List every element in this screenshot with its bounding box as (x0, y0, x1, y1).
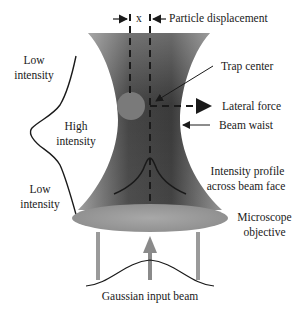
displacement-symbol-label: x (136, 12, 142, 25)
microscope-label-line1: Microscope (232, 211, 297, 224)
input-beam-edge-left (96, 232, 100, 280)
gaussian-input-label: Gaussian input beam (95, 290, 205, 303)
microscope-label-line2: objective (232, 226, 297, 239)
beam-waist-label: Beam waist (219, 119, 273, 132)
low-intensity-top-line2: intensity (2, 69, 66, 82)
intensity-profile-label-line2: across beam face (196, 180, 296, 193)
optical-trap-diagram (0, 0, 299, 310)
high-intensity-line1: High (44, 120, 108, 133)
low-intensity-bottom-line1: Low (8, 183, 72, 196)
input-beam-edge-right (196, 232, 200, 280)
trapped-particle (117, 92, 145, 120)
input-beam-arrow-icon (143, 236, 157, 253)
trap-center-label: Trap center (221, 60, 273, 73)
high-intensity-line2: intensity (44, 135, 108, 148)
lateral-force-label: Lateral force (222, 100, 281, 113)
particle-displacement-label: Particle displacement (169, 12, 268, 25)
intensity-profile-label-line1: Intensity profile (200, 165, 295, 178)
microscope-objective (72, 204, 228, 232)
low-intensity-bottom-line2: intensity (8, 198, 72, 211)
low-intensity-top-line1: Low (2, 54, 66, 67)
